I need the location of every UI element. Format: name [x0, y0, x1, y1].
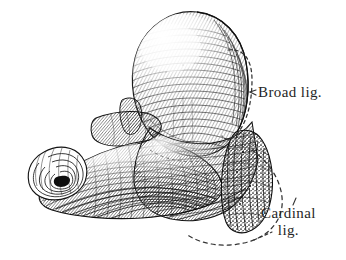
label-broad-ligament: Broad lig.: [258, 84, 322, 101]
label-cardinal-ligament: Cardinal lig.: [261, 205, 316, 239]
label-cardinal-line2: lig.: [261, 222, 316, 239]
label-cardinal-line1: Cardinal: [261, 205, 316, 221]
